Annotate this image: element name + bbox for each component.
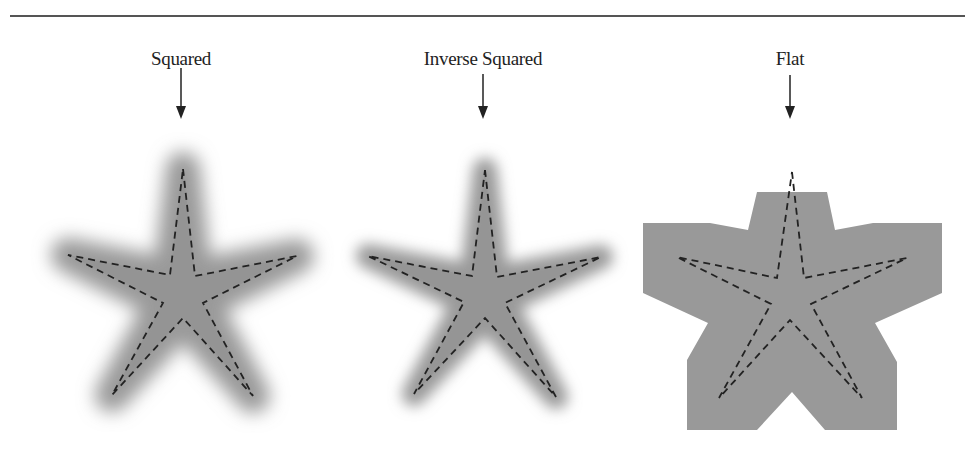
arrow-icon xyxy=(785,75,795,119)
flat-region xyxy=(643,192,942,430)
diagram-canvas xyxy=(0,0,974,457)
arrow-icon xyxy=(478,74,488,119)
star-squared xyxy=(68,169,297,396)
arrow-icon xyxy=(176,68,186,119)
star-inverse-squared xyxy=(368,170,601,397)
star-flat xyxy=(643,172,942,430)
